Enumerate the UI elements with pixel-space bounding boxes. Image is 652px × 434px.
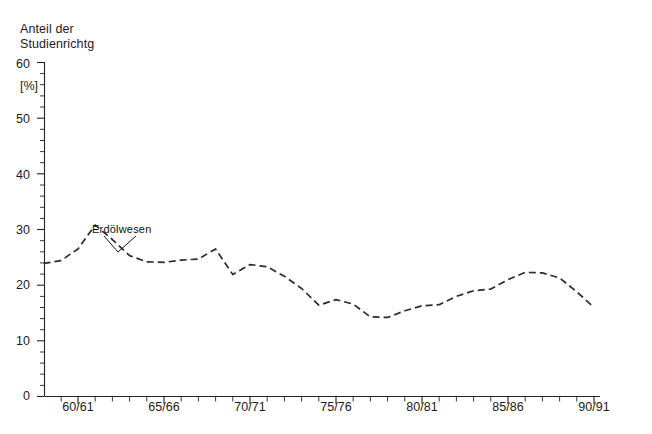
series-line-erdoelwesen — [44, 225, 594, 317]
x-tick-label-60-61: 60/61 — [48, 400, 108, 414]
x-tick-label-80-81: 80/81 — [392, 400, 452, 414]
x-tick-label-65-66: 65/66 — [134, 400, 194, 414]
y-tick-label-0: 0 — [4, 389, 30, 403]
y-tick-label-40: 40 — [4, 168, 30, 182]
x-tick-label-90-91: 90/91 — [564, 400, 624, 414]
y-axis-unit-label: [%] — [20, 79, 38, 93]
chart-figure: Anteil der Studienrichtg [%] 60 50 40 30… — [0, 0, 652, 434]
y-tick-label-50: 50 — [4, 112, 30, 126]
y-tick-label-10: 10 — [4, 334, 30, 348]
y-tick-label-60: 60 — [4, 57, 30, 71]
x-tick-label-75-76: 75/76 — [306, 400, 366, 414]
chart-plot-area — [0, 0, 652, 434]
chart-title-line-2: Studienrichtg — [20, 37, 94, 52]
series-annotation-erdoelwesen: Erdölwesen — [92, 223, 151, 235]
y-tick-label-30: 30 — [4, 223, 30, 237]
x-tick-label-70-71: 70/71 — [220, 400, 280, 414]
y-axis-major-ticks — [37, 63, 45, 397]
annotation-leader-line — [104, 236, 136, 252]
x-tick-label-85-86: 85/86 — [478, 400, 538, 414]
chart-title-line-1: Anteil der — [20, 22, 74, 37]
y-tick-label-20: 20 — [4, 278, 30, 292]
